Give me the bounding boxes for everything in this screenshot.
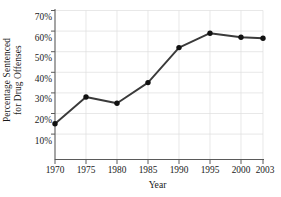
- data-point-markers: [52, 31, 265, 127]
- x-tick-label-2000: 2000: [232, 166, 251, 175]
- x-tick-label-1990: 1990: [170, 166, 189, 175]
- drug-offenses-line-chart: Percentage Sentenced for Drug Offenses 1…: [0, 0, 281, 197]
- x-axis-ticks: [55, 160, 263, 165]
- data-point-1980: [114, 101, 119, 106]
- data-point-1995: [207, 31, 212, 36]
- x-tick-label-1980: 1980: [108, 166, 127, 175]
- x-axis-title-text: Year: [149, 179, 167, 190]
- data-point-1985: [145, 80, 150, 85]
- x-tick-label-1995: 1995: [201, 166, 220, 175]
- data-point-1990: [176, 45, 181, 50]
- data-point-2000: [238, 35, 243, 40]
- x-tick-label-1970: 1970: [46, 166, 65, 175]
- x-tick-label-1985: 1985: [139, 166, 158, 175]
- data-point-2003: [260, 36, 265, 41]
- vertical-gridlines: [86, 11, 263, 160]
- x-tick-label-2003: 2003: [256, 166, 275, 175]
- data-point-1975: [83, 94, 88, 99]
- x-axis-title: Year: [0, 180, 281, 190]
- y-axis-ticks: [51, 11, 55, 135]
- data-point-1970: [52, 121, 57, 126]
- x-tick-label-1975: 1975: [77, 166, 96, 175]
